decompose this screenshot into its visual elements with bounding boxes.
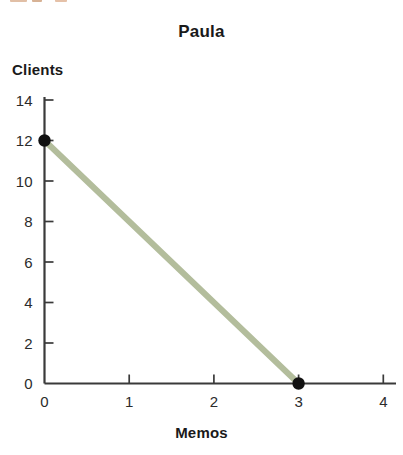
x-tick-label: 1 bbox=[125, 393, 133, 410]
y-tick-label: 8 bbox=[24, 213, 32, 230]
chart-figure: Paula Clients Memos 02468101214 01234 bbox=[0, 0, 403, 455]
x-tick-label: 2 bbox=[210, 393, 218, 410]
y-tick-label: 14 bbox=[16, 92, 33, 109]
y-tick-label: 0 bbox=[24, 375, 32, 392]
x-tick-mark-group bbox=[129, 375, 383, 384]
y-tick-label: 4 bbox=[24, 294, 32, 311]
series-line bbox=[45, 141, 299, 384]
y-tick-label: 6 bbox=[24, 254, 32, 271]
plot-area: 02468101214 01234 bbox=[0, 0, 403, 455]
y-tick-label: 12 bbox=[16, 132, 33, 149]
y-tick-label: 2 bbox=[24, 335, 32, 352]
x-tick-label: 3 bbox=[294, 393, 302, 410]
x-tick-label: 4 bbox=[379, 393, 387, 410]
data-point-marker bbox=[292, 377, 304, 389]
data-point-marker bbox=[38, 134, 50, 146]
data-series-layer bbox=[45, 141, 299, 384]
x-tick-label: 0 bbox=[40, 393, 48, 410]
x-tick-label-group: 01234 bbox=[40, 393, 387, 410]
y-tick-label: 10 bbox=[16, 173, 33, 190]
axis-lines bbox=[45, 97, 397, 384]
y-tick-label-group: 02468101214 bbox=[16, 92, 33, 393]
